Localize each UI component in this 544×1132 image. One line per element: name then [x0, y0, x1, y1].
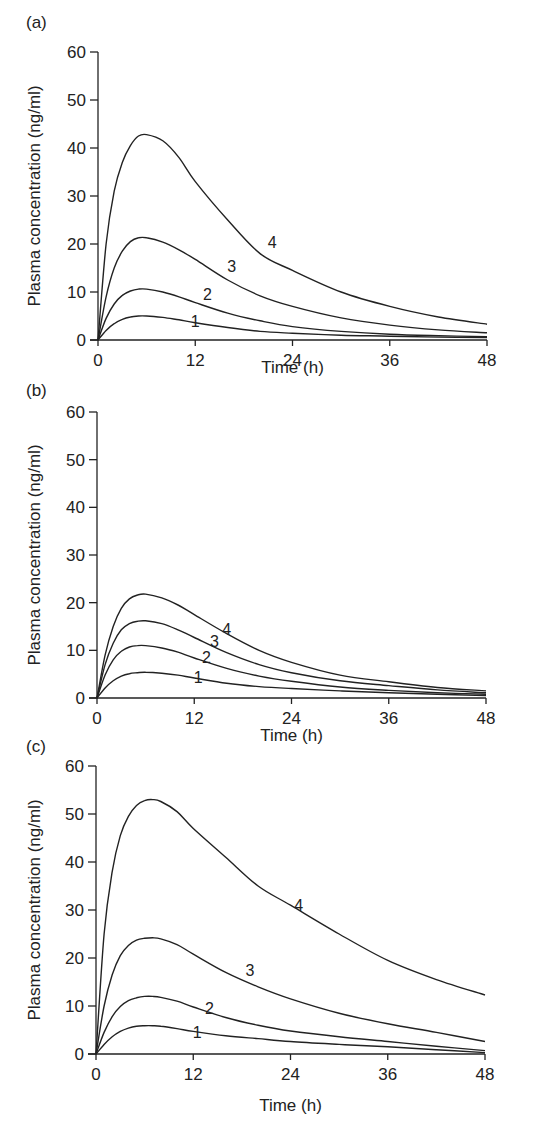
curve-series-1 — [97, 672, 486, 698]
curve-label: 2 — [202, 649, 211, 666]
x-tick-label: 48 — [476, 1065, 495, 1084]
panel-c: (c)0102030405060012243648Time (h)Plasma … — [25, 737, 494, 1115]
panel-b: (b)0102030405060012243648Time (h)Plasma … — [25, 381, 495, 745]
panel-label: (b) — [26, 381, 47, 400]
y-tick-label: 20 — [67, 235, 86, 254]
y-tick-label: 60 — [65, 757, 84, 776]
y-tick-label: 50 — [65, 805, 84, 824]
x-axis-title: Time (h) — [259, 1096, 322, 1115]
curve-label: 2 — [203, 286, 212, 303]
curve-label: 4 — [294, 897, 303, 914]
curve-label: 1 — [193, 1024, 202, 1041]
y-tick-label: 60 — [66, 403, 85, 422]
curve-label: 4 — [268, 234, 277, 251]
y-tick-label: 20 — [65, 949, 84, 968]
curve-series-3 — [98, 237, 487, 340]
x-tick-label: 12 — [186, 351, 205, 370]
y-axis-title: Plasma concentration (ng/ml) — [25, 799, 44, 1020]
y-tick-label: 0 — [75, 1045, 84, 1064]
x-tick-label: 0 — [91, 1065, 100, 1084]
curve-label: 3 — [210, 633, 219, 650]
x-tick-label: 0 — [93, 351, 102, 370]
curve-label: 3 — [246, 962, 255, 979]
x-tick-label: 48 — [478, 351, 497, 370]
panel-label: (a) — [26, 13, 47, 32]
x-axis-title: Time (h) — [261, 358, 324, 377]
curve-label: 4 — [222, 621, 231, 638]
x-tick-label: 48 — [477, 709, 496, 728]
x-tick-label: 0 — [92, 709, 101, 728]
x-tick-label: 12 — [184, 1065, 203, 1084]
curve-series-4 — [97, 594, 486, 698]
y-tick-label: 0 — [77, 331, 86, 350]
y-tick-label: 40 — [67, 139, 86, 158]
y-tick-label: 50 — [67, 91, 86, 110]
y-axis-title: Plasma concentration (ng/ml) — [25, 85, 44, 306]
x-tick-label: 36 — [380, 351, 399, 370]
y-tick-label: 10 — [67, 283, 86, 302]
curve-label: 3 — [227, 258, 236, 275]
curve-series-1 — [98, 316, 487, 340]
y-tick-label: 50 — [66, 451, 85, 470]
curve-series-2 — [98, 289, 487, 340]
curve-label: 1 — [194, 669, 203, 686]
y-tick-label: 40 — [66, 498, 85, 517]
y-tick-label: 30 — [65, 901, 84, 920]
y-tick-label: 30 — [67, 187, 86, 206]
panel-a: (a)0102030405060012243648Time (h)Plasma … — [25, 13, 496, 377]
x-tick-label: 36 — [379, 709, 398, 728]
y-tick-label: 30 — [66, 546, 85, 565]
curve-label: 2 — [205, 1000, 214, 1017]
y-tick-label: 10 — [65, 997, 84, 1016]
curve-series-4 — [98, 134, 487, 340]
figure-three-panel-plot: (a)0102030405060012243648Time (h)Plasma … — [0, 0, 544, 1132]
curve-series-1 — [96, 1026, 485, 1054]
x-tick-label: 12 — [185, 709, 204, 728]
x-tick-label: 24 — [281, 1065, 300, 1084]
x-tick-label: 36 — [378, 1065, 397, 1084]
curve-label: 1 — [191, 313, 200, 330]
curve-series-4 — [96, 800, 485, 1054]
panel-label: (c) — [26, 737, 46, 756]
y-tick-label: 10 — [66, 641, 85, 660]
y-tick-label: 20 — [66, 594, 85, 613]
y-tick-label: 60 — [67, 43, 86, 62]
curve-series-2 — [97, 645, 486, 698]
y-tick-label: 0 — [76, 689, 85, 708]
x-axis-title: Time (h) — [260, 726, 323, 745]
y-axis-title: Plasma concentration (ng/ml) — [25, 444, 44, 665]
y-tick-label: 40 — [65, 853, 84, 872]
